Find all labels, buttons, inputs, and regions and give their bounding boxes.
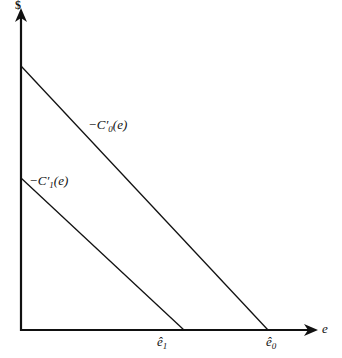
curve-c1 <box>21 178 184 330</box>
x-tick-e0-hat: ê0 <box>266 335 276 351</box>
curve-c0 <box>21 66 268 330</box>
curve-c1-label: −C′1(e) <box>29 174 68 190</box>
curve-c0-label: −C′0(e) <box>88 118 127 134</box>
x-tick-e1-hat: ê1 <box>157 335 167 351</box>
x-axis-label: e <box>322 322 328 335</box>
y-axis-label: $ <box>15 0 21 11</box>
